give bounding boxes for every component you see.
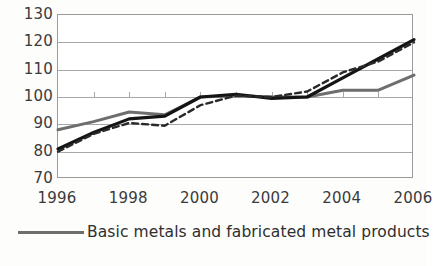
x-tick-label-2000: 2000 [180,191,219,206]
x-tick-label-1998: 1998 [109,191,148,206]
legend-swatch-line [18,231,84,234]
x-tick-label-1996: 1996 [38,191,77,206]
x-tick-label-2006: 2006 [394,191,433,206]
x-tick-label-2004: 2004 [322,191,361,206]
chart-legend: Basic metals and fabricated metal produc… [18,225,430,241]
x-tick-label-2002: 2002 [251,191,290,206]
legend-label: Basic metals and fabricated metal produc… [87,225,430,241]
